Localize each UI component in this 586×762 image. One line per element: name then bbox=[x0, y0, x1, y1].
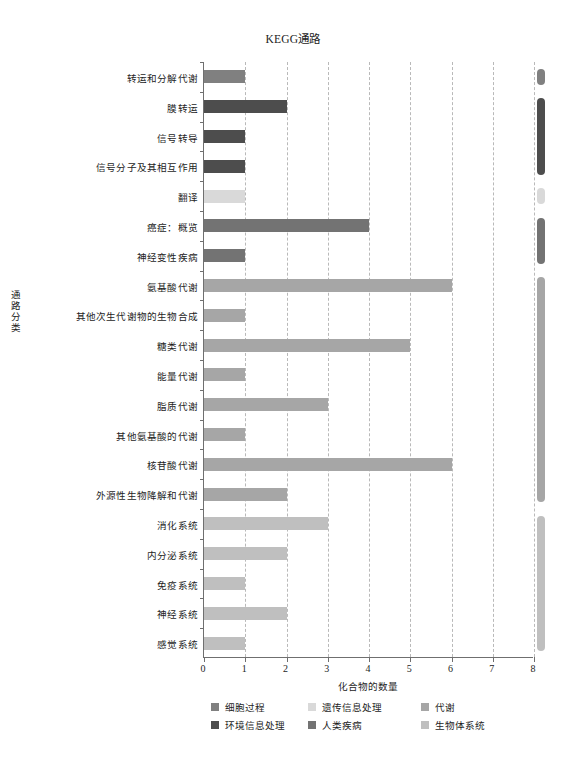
legend-item[interactable]: 生物体系统 bbox=[421, 718, 485, 732]
bar[interactable] bbox=[204, 160, 245, 173]
legend-item[interactable]: 遗传信息处理 bbox=[308, 700, 382, 714]
x-tick-mark bbox=[493, 657, 494, 662]
y-axis-tick-label: 翻译 bbox=[2, 190, 198, 204]
y-axis-tick-label: 信号转导 bbox=[2, 131, 198, 145]
y-tick-mark bbox=[200, 628, 204, 629]
legend-item[interactable]: 细胞过程 bbox=[211, 700, 265, 714]
y-tick-mark bbox=[200, 181, 204, 182]
y-tick-mark bbox=[200, 92, 204, 93]
legend-swatch-icon bbox=[421, 703, 429, 711]
bar[interactable] bbox=[204, 577, 245, 590]
gridline bbox=[410, 62, 411, 657]
gridline bbox=[369, 62, 370, 657]
legend-swatch-icon bbox=[211, 721, 219, 729]
x-tick-mark bbox=[410, 657, 411, 662]
legend-label: 遗传信息处理 bbox=[322, 700, 382, 714]
y-axis-tick-label: 外源性生物降解和代谢 bbox=[2, 488, 198, 502]
x-tick-mark bbox=[328, 657, 329, 662]
y-tick-mark bbox=[200, 62, 204, 63]
y-axis-tick-label: 内分泌系统 bbox=[2, 548, 198, 562]
x-tick-mark bbox=[534, 657, 535, 662]
x-axis-tick-label: 7 bbox=[477, 663, 507, 674]
bar[interactable] bbox=[204, 458, 452, 471]
bar[interactable] bbox=[204, 309, 245, 322]
bar[interactable] bbox=[204, 607, 287, 620]
x-axis-tick-label: 3 bbox=[312, 663, 342, 674]
y-tick-mark bbox=[200, 211, 204, 212]
legend-swatch-icon bbox=[308, 703, 316, 711]
bar[interactable] bbox=[204, 190, 245, 203]
x-axis-tick-label: 4 bbox=[353, 663, 383, 674]
bar[interactable] bbox=[204, 488, 287, 501]
group-strip-segment bbox=[537, 277, 545, 502]
x-axis-tick-label: 1 bbox=[229, 663, 259, 674]
bar[interactable] bbox=[204, 428, 245, 441]
y-tick-mark bbox=[200, 241, 204, 242]
y-axis-tick-label: 信号分子及其相互作用 bbox=[2, 160, 198, 174]
y-tick-mark bbox=[200, 420, 204, 421]
y-tick-mark bbox=[200, 271, 204, 272]
x-axis-tick-label: 5 bbox=[394, 663, 424, 674]
y-tick-mark bbox=[200, 479, 204, 480]
y-tick-mark bbox=[200, 122, 204, 123]
plot-area bbox=[203, 62, 533, 658]
legend-label: 生物体系统 bbox=[435, 718, 485, 732]
x-axis-title: 化合物的数量 bbox=[203, 679, 533, 693]
bar[interactable] bbox=[204, 219, 369, 232]
legend-item[interactable]: 环境信息处理 bbox=[211, 718, 285, 732]
bar[interactable] bbox=[204, 547, 287, 560]
legend-label: 环境信息处理 bbox=[225, 718, 285, 732]
kegg-pathway-figure: KEGG通路 通路分类 转运和分解代谢膜转运信号转导信号分子及其相互作用翻译癌症… bbox=[0, 0, 586, 762]
group-strip-segment bbox=[537, 516, 545, 652]
y-axis-tick-label: 膜转运 bbox=[2, 101, 198, 115]
y-axis-tick-label: 神经变性疾病 bbox=[2, 250, 198, 264]
x-axis-tick-label: 6 bbox=[436, 663, 466, 674]
y-tick-mark bbox=[200, 390, 204, 391]
bar[interactable] bbox=[204, 100, 287, 113]
x-axis-tick-label: 2 bbox=[271, 663, 301, 674]
legend-item[interactable]: 代谢 bbox=[421, 700, 455, 714]
y-tick-mark bbox=[200, 569, 204, 570]
gridline bbox=[245, 62, 246, 657]
y-axis-tick-label: 核苷酸代谢 bbox=[2, 458, 198, 472]
y-tick-mark bbox=[200, 449, 204, 450]
x-tick-mark bbox=[287, 657, 288, 662]
gridline bbox=[287, 62, 288, 657]
page-title: KEGG通路 bbox=[0, 30, 586, 46]
y-axis-tick-label: 神经系统 bbox=[2, 607, 198, 621]
legend-item[interactable]: 人类疾病 bbox=[308, 718, 362, 732]
bar[interactable] bbox=[204, 130, 245, 143]
bar[interactable] bbox=[204, 249, 245, 262]
y-tick-mark bbox=[200, 300, 204, 301]
group-strip-segment bbox=[537, 69, 545, 86]
x-axis-tick-label: 8 bbox=[518, 663, 548, 674]
y-axis-tick-label: 癌症：概览 bbox=[2, 220, 198, 234]
group-strip-segment bbox=[537, 218, 545, 264]
group-strip-segment bbox=[537, 98, 545, 174]
x-tick-mark bbox=[369, 657, 370, 662]
y-tick-mark bbox=[200, 151, 204, 152]
bar[interactable] bbox=[204, 339, 410, 352]
legend-swatch-icon bbox=[421, 721, 429, 729]
y-tick-mark bbox=[200, 330, 204, 331]
bar[interactable] bbox=[204, 517, 328, 530]
bar[interactable] bbox=[204, 70, 245, 83]
gridline bbox=[452, 62, 453, 657]
y-axis-tick-label: 免疫系统 bbox=[2, 578, 198, 592]
legend-label: 人类疾病 bbox=[322, 718, 362, 732]
x-axis-tick-label: 0 bbox=[188, 663, 218, 674]
y-axis-tick-labels: 转运和分解代谢膜转运信号转导信号分子及其相互作用翻译癌症：概览神经变性疾病氨基酸… bbox=[0, 62, 198, 658]
bar[interactable] bbox=[204, 637, 245, 650]
gridline bbox=[493, 62, 494, 657]
y-axis-tick-label: 消化系统 bbox=[2, 518, 198, 532]
bar[interactable] bbox=[204, 398, 328, 411]
group-strip-segment bbox=[537, 188, 545, 205]
y-tick-mark bbox=[200, 598, 204, 599]
bar[interactable] bbox=[204, 279, 452, 292]
y-axis-tick-label: 其他氨基酸的代谢 bbox=[2, 429, 198, 443]
y-axis-tick-label: 能量代谢 bbox=[2, 369, 198, 383]
y-axis-tick-label: 脂质代谢 bbox=[2, 399, 198, 413]
gridline bbox=[534, 62, 535, 657]
legend-swatch-icon bbox=[308, 721, 316, 729]
bar[interactable] bbox=[204, 368, 245, 381]
